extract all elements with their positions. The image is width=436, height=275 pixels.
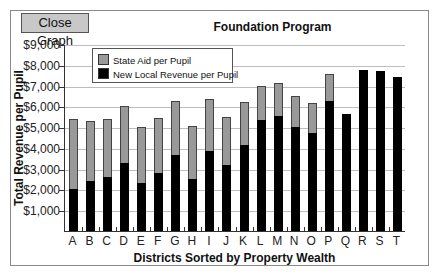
local-revenue-swatch-icon — [98, 68, 109, 79]
x-tick-mark — [287, 227, 288, 231]
state-aid-segment — [257, 86, 266, 121]
local-revenue-segment — [154, 173, 163, 231]
state-aid-segment — [137, 127, 146, 183]
local-revenue-segment — [69, 189, 78, 231]
y-tick-label: $9,000 — [0, 38, 60, 52]
bar-j — [222, 117, 231, 231]
gridline — [65, 45, 405, 46]
gridline — [65, 211, 405, 212]
gridline — [65, 107, 405, 108]
local-revenue-segment — [188, 179, 197, 231]
x-tick-mark — [99, 227, 100, 231]
x-axis-label: Districts Sorted by Property Wealth — [64, 251, 405, 265]
y-tick-label: $7,000 — [0, 80, 60, 94]
x-tick-mark — [304, 227, 305, 231]
state-aid-segment — [325, 74, 334, 101]
x-tick-mark — [133, 227, 134, 231]
x-tick-label: T — [388, 234, 404, 248]
local-revenue-segment — [103, 177, 112, 231]
y-tick-label: $1,000 — [0, 204, 60, 218]
state-aid-segment — [154, 118, 163, 173]
x-tick-label: R — [354, 234, 370, 248]
bar-g — [171, 101, 180, 231]
x-tick-label: A — [65, 234, 81, 248]
y-tick-label: $6,000 — [0, 100, 60, 114]
x-tick-label: P — [320, 234, 336, 248]
local-revenue-segment — [308, 133, 317, 231]
bar-i — [205, 99, 214, 231]
x-tick-mark — [167, 227, 168, 231]
y-tick-label: $2,000 — [0, 183, 60, 197]
x-tick-mark — [338, 227, 339, 231]
state-aid-segment — [222, 117, 231, 165]
x-tick-label: S — [371, 234, 387, 248]
bar-q — [342, 114, 351, 231]
x-tick-label: L — [252, 234, 268, 248]
local-revenue-segment — [205, 151, 214, 231]
x-tick-label: O — [303, 234, 319, 248]
bar-e — [137, 127, 146, 232]
bar-a — [69, 119, 78, 231]
x-tick-label: C — [99, 234, 115, 248]
x-tick-label: N — [286, 234, 302, 248]
state-aid-segment — [274, 83, 283, 117]
state-aid-segment — [308, 103, 317, 133]
gridline — [65, 87, 405, 88]
x-tick-mark — [116, 227, 117, 231]
legend-item-local-revenue: New Local Revenue per Pupil — [98, 68, 238, 80]
gridline — [65, 149, 405, 150]
bar-f — [154, 118, 163, 231]
x-tick-label: H — [184, 234, 200, 248]
bar-s — [376, 71, 385, 231]
local-revenue-segment — [291, 127, 300, 231]
local-revenue-segment — [171, 155, 180, 231]
bar-c — [103, 119, 112, 231]
y-tick-label: $3,000 — [0, 163, 60, 177]
x-tick-mark — [150, 227, 151, 231]
x-tick-label: B — [82, 234, 98, 248]
local-revenue-segment — [359, 70, 368, 231]
local-revenue-segment — [393, 77, 402, 231]
local-revenue-segment — [137, 183, 146, 231]
x-tick-label: J — [218, 234, 234, 248]
x-tick-label: F — [150, 234, 166, 248]
x-tick-label: D — [116, 234, 132, 248]
state-aid-segment — [120, 106, 129, 163]
state-aid-segment — [205, 99, 214, 152]
state-aid-segment — [188, 126, 197, 179]
legend-label: New Local Revenue per Pupil — [113, 69, 238, 80]
local-revenue-segment — [257, 120, 266, 231]
y-axis-label: Total Revenue per Pupil — [12, 70, 26, 206]
bar-k — [240, 102, 249, 231]
legend: State Aid per Pupil New Local Revenue pe… — [92, 48, 233, 83]
x-tick-mark — [355, 227, 356, 231]
gridline — [65, 128, 405, 129]
local-revenue-segment — [376, 71, 385, 231]
bar-h — [188, 126, 197, 231]
chart-title: Foundation Program — [140, 20, 405, 34]
x-tick-mark — [236, 227, 237, 231]
x-tick-mark — [372, 227, 373, 231]
bar-b — [86, 121, 95, 231]
local-revenue-segment — [240, 145, 249, 231]
x-tick-mark — [201, 227, 202, 231]
x-tick-label: E — [133, 234, 149, 248]
bar-n — [291, 96, 300, 231]
x-tick-label: M — [269, 234, 285, 248]
x-tick-mark — [184, 227, 185, 231]
x-tick-label: I — [201, 234, 217, 248]
state-aid-swatch-icon — [98, 54, 109, 65]
x-tick-mark — [321, 227, 322, 231]
local-revenue-segment — [86, 181, 95, 231]
state-aid-segment — [86, 121, 95, 181]
bar-m — [274, 83, 283, 231]
local-revenue-segment — [274, 116, 283, 231]
legend-item-state-aid: State Aid per Pupil — [98, 54, 191, 66]
close-graph-button[interactable]: Close Graph — [21, 13, 89, 33]
state-aid-segment — [103, 119, 112, 177]
local-revenue-segment — [325, 101, 334, 231]
local-revenue-segment — [222, 165, 231, 231]
local-revenue-segment — [120, 163, 129, 231]
x-tick-label: G — [167, 234, 183, 248]
x-tick-mark — [253, 227, 254, 231]
